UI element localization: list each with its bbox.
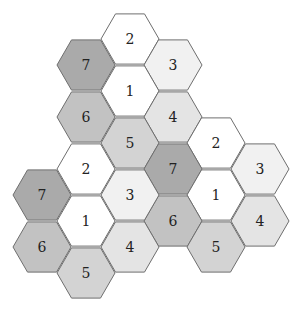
hex-label: 5	[82, 265, 91, 281]
hex-label: 6	[82, 109, 91, 125]
hex-label: 3	[126, 187, 135, 203]
hex-label: 5	[212, 239, 221, 255]
hex-label: 6	[169, 213, 178, 229]
hex-label: 3	[256, 161, 265, 177]
hex-label: 7	[38, 187, 47, 203]
hex-label: 2	[82, 161, 91, 177]
hex-label: 4	[256, 213, 265, 229]
hex-label: 4	[126, 239, 135, 255]
hex-label: 4	[169, 109, 178, 125]
hex-grid-diagram: 273164527316452731645	[0, 0, 306, 318]
hex-label: 1	[212, 187, 221, 203]
hex-label: 1	[82, 213, 91, 229]
hex-label: 1	[126, 83, 135, 99]
hex-label: 2	[212, 135, 221, 151]
hex-label: 5	[126, 135, 135, 151]
hex-label: 7	[169, 161, 178, 177]
hex-label: 2	[126, 31, 135, 47]
hex-label: 6	[38, 239, 47, 255]
hex-label: 3	[169, 57, 178, 73]
hex-label: 7	[82, 57, 91, 73]
